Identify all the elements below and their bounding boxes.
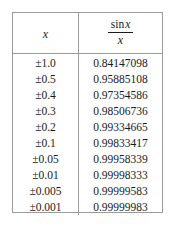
cell-x-value: ±0.1 — [13, 135, 79, 151]
cell-x-value: ±0.005 — [13, 183, 79, 199]
table-header: x sinx x — [13, 13, 162, 54]
cell-x-value: ±0.5 — [13, 71, 79, 87]
cell-function-value: 0.99998333 — [79, 167, 162, 183]
cell-function-value: 0.99999983 — [79, 199, 162, 215]
sinx-over-x-table: x sinx x ±1.0 0.84147098 ±0.5 0.95885108 — [13, 13, 162, 215]
table-row: ±0.3 0.98506736 — [13, 103, 162, 119]
cell-function-value: 0.84147098 — [79, 54, 162, 72]
cell-x-value: ±0.4 — [13, 87, 79, 103]
cell-function-value: 0.95885108 — [79, 71, 162, 87]
column-header-x: x — [13, 13, 79, 54]
table-row: ±0.1 0.99833417 — [13, 135, 162, 151]
table-body: ±1.0 0.84147098 ±0.5 0.95885108 ±0.4 0.9… — [13, 54, 162, 216]
numerator-variable: x — [124, 18, 130, 30]
column-header-fraction: sinx x — [79, 13, 162, 54]
table-row: ±0.05 0.99958339 — [13, 151, 162, 167]
cell-function-value: 0.97354586 — [79, 87, 162, 103]
table-row: ±1.0 0.84147098 — [13, 54, 162, 72]
cell-x-value: ±0.05 — [13, 151, 79, 167]
cell-x-value: ±1.0 — [13, 54, 79, 72]
fraction-sinx-over-x: sinx x — [108, 18, 134, 46]
column-header-x-label: x — [43, 27, 48, 41]
cell-function-value: 0.99999583 — [79, 183, 162, 199]
table-row: ±0.5 0.95885108 — [13, 71, 162, 87]
cell-function-value: 0.98506736 — [79, 103, 162, 119]
cell-function-value: 0.99334665 — [79, 119, 162, 135]
table-row: ±0.4 0.97354586 — [13, 87, 162, 103]
sin-operator: sin — [111, 18, 124, 30]
table-row: ±0.001 0.99999983 — [13, 199, 162, 215]
fraction-numerator: sinx — [108, 18, 134, 30]
table-row: ±0.2 0.99334665 — [13, 119, 162, 135]
cell-function-value: 0.99958339 — [79, 151, 162, 167]
cell-x-value: ±0.3 — [13, 103, 79, 119]
fraction-denominator: x — [108, 34, 134, 47]
header-row: x sinx x — [13, 13, 162, 54]
math-table-container: x sinx x ±1.0 0.84147098 ±0.5 0.95885108 — [12, 12, 163, 213]
table-row: ±0.01 0.99998333 — [13, 167, 162, 183]
cell-x-value: ±0.01 — [13, 167, 79, 183]
cell-function-value: 0.99833417 — [79, 135, 162, 151]
cell-x-value: ±0.2 — [13, 119, 79, 135]
cell-x-value: ±0.001 — [13, 199, 79, 215]
table-row: ±0.005 0.99999583 — [13, 183, 162, 199]
